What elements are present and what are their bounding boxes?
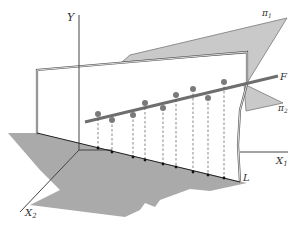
data-point — [109, 117, 115, 123]
label-l: L — [242, 172, 250, 183]
label-f: F — [279, 71, 288, 82]
diagram-canvas: Y X1 X2 F L π1 π2 — [0, 0, 300, 227]
data-point — [130, 112, 136, 118]
label-pi2: π2 — [277, 103, 288, 114]
label-y: Y — [67, 11, 76, 24]
projected-point — [97, 147, 100, 150]
projected-point — [192, 171, 195, 174]
data-point — [205, 95, 211, 101]
data-point — [95, 111, 101, 117]
projection-diagram: Y X1 X2 F L π1 π2 — [0, 0, 300, 227]
projected-point — [175, 166, 178, 169]
projected-point — [207, 174, 210, 177]
projected-point — [132, 156, 135, 159]
data-point — [142, 100, 148, 106]
projected-point — [144, 159, 147, 162]
data-point — [160, 105, 166, 111]
label-pi1: π1 — [261, 8, 272, 19]
label-x1: X1 — [275, 155, 288, 168]
data-point — [221, 79, 227, 85]
data-point — [173, 92, 179, 98]
data-point — [190, 86, 196, 92]
projected-point — [162, 163, 165, 166]
projected-point — [111, 151, 114, 154]
plane-pi1 — [122, 18, 287, 83]
projected-point — [223, 177, 226, 180]
